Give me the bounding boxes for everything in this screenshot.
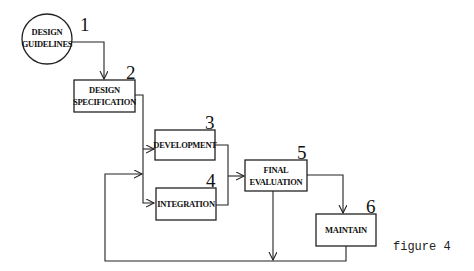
node-5-line2: EVALUATION xyxy=(250,177,304,187)
node-2-line2: SPECIFICATION xyxy=(73,97,137,107)
node-maintain: MAINTAIN 6 xyxy=(316,196,376,246)
node-3-number: 3 xyxy=(205,112,215,133)
node-2-number: 2 xyxy=(126,62,136,83)
node-6-number: 6 xyxy=(366,196,376,217)
figure-caption: figure 4 xyxy=(393,240,451,254)
edge-5-to-6 xyxy=(307,175,343,213)
node-4-number: 4 xyxy=(206,170,216,191)
node-integration: INTEGRATION 4 xyxy=(156,170,216,220)
node-6-line1: MAINTAIN xyxy=(325,225,368,235)
node-final-evaluation: FINAL EVALUATION 5 xyxy=(245,142,307,191)
flowchart: DESIGN GUIDELINES 1 DESIGN SPECIFICATION… xyxy=(0,0,474,271)
node-1-number: 1 xyxy=(80,14,90,35)
node-3-line1: DEVELOPMENT xyxy=(153,140,217,150)
node-5-number: 5 xyxy=(297,142,307,163)
node-5-line1: FINAL xyxy=(264,165,290,175)
node-development: DEVELOPMENT 3 xyxy=(153,112,217,160)
diagram-canvas: DESIGN GUIDELINES 1 DESIGN SPECIFICATION… xyxy=(0,0,474,271)
node-2-line1: DESIGN xyxy=(89,85,121,95)
edge-3-4-merge xyxy=(215,145,228,205)
node-1-line2: GUIDELINES xyxy=(22,39,73,49)
edge-1-to-2 xyxy=(72,42,104,79)
node-4-line1: INTEGRATION xyxy=(157,199,216,209)
node-1-line1: DESIGN xyxy=(32,27,64,37)
node-design-guidelines: DESIGN GUIDELINES 1 xyxy=(22,14,90,64)
node-design-specification: DESIGN SPECIFICATION 2 xyxy=(73,62,137,112)
feedback-loop xyxy=(105,174,346,261)
